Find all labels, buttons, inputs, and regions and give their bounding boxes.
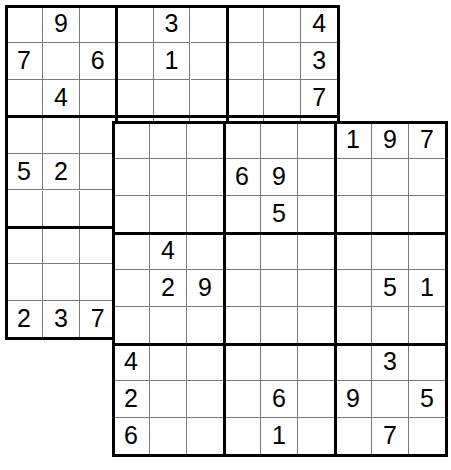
sudoku-empty-cell[interactable]	[335, 307, 372, 344]
sudoku-empty-cell[interactable]	[117, 6, 154, 43]
sudoku-empty-cell[interactable]	[224, 381, 261, 418]
sudoku-given-cell[interactable]: 3	[154, 6, 191, 43]
sudoku-given-cell[interactable]: 6	[80, 43, 117, 80]
sudoku-empty-cell[interactable]	[409, 344, 446, 381]
sudoku-given-cell[interactable]: 5	[261, 196, 298, 233]
sudoku-empty-cell[interactable]	[43, 264, 80, 301]
sudoku-empty-cell[interactable]	[187, 122, 224, 159]
sudoku-empty-cell[interactable]	[409, 233, 446, 270]
sudoku-empty-cell[interactable]	[227, 80, 264, 117]
sudoku-empty-cell[interactable]	[298, 196, 335, 233]
sudoku-given-cell[interactable]: 9	[261, 159, 298, 196]
sudoku-empty-cell[interactable]	[224, 344, 261, 381]
sudoku-empty-cell[interactable]	[187, 159, 224, 196]
sudoku-empty-cell[interactable]	[409, 196, 446, 233]
sudoku-empty-cell[interactable]	[372, 233, 409, 270]
sudoku-empty-cell[interactable]	[187, 196, 224, 233]
sudoku-empty-cell[interactable]	[113, 159, 150, 196]
sudoku-empty-cell[interactable]	[117, 43, 154, 80]
sudoku-empty-cell[interactable]	[261, 344, 298, 381]
sudoku-given-cell[interactable]: 6	[261, 381, 298, 418]
sudoku-given-cell[interactable]: 1	[409, 270, 446, 307]
sudoku-empty-cell[interactable]	[150, 418, 187, 455]
sudoku-empty-cell[interactable]	[335, 196, 372, 233]
sudoku-empty-cell[interactable]	[187, 307, 224, 344]
sudoku-empty-cell[interactable]	[298, 344, 335, 381]
sudoku-empty-cell[interactable]	[6, 227, 43, 264]
sudoku-empty-cell[interactable]	[6, 6, 43, 43]
sudoku-empty-cell[interactable]	[113, 122, 150, 159]
sudoku-empty-cell[interactable]	[154, 80, 191, 117]
sudoku-given-cell[interactable]: 9	[187, 270, 224, 307]
sudoku-given-cell[interactable]: 1	[335, 122, 372, 159]
sudoku-empty-cell[interactable]	[298, 159, 335, 196]
sudoku-given-cell[interactable]: 4	[113, 344, 150, 381]
sudoku-given-cell[interactable]: 5	[6, 154, 43, 191]
sudoku-given-cell[interactable]: 6	[113, 418, 150, 455]
sudoku-empty-cell[interactable]	[191, 6, 228, 43]
sudoku-empty-cell[interactable]	[113, 233, 150, 270]
sudoku-given-cell[interactable]: 4	[43, 80, 80, 117]
sudoku-empty-cell[interactable]	[224, 270, 261, 307]
sudoku-empty-cell[interactable]	[227, 6, 264, 43]
sudoku-empty-cell[interactable]	[264, 80, 301, 117]
sudoku-given-cell[interactable]: 2	[6, 301, 43, 338]
sudoku-given-cell[interactable]: 1	[261, 418, 298, 455]
sudoku-empty-cell[interactable]	[43, 227, 80, 264]
sudoku-empty-cell[interactable]	[335, 159, 372, 196]
sudoku-empty-cell[interactable]	[224, 418, 261, 455]
sudoku-empty-cell[interactable]	[298, 381, 335, 418]
sudoku-given-cell[interactable]: 2	[113, 381, 150, 418]
sudoku-empty-cell[interactable]	[409, 159, 446, 196]
sudoku-empty-cell[interactable]	[80, 80, 117, 117]
sudoku-empty-cell[interactable]	[298, 122, 335, 159]
sudoku-empty-cell[interactable]	[150, 307, 187, 344]
sudoku-empty-cell[interactable]	[261, 307, 298, 344]
sudoku-empty-cell[interactable]	[298, 233, 335, 270]
sudoku-given-cell[interactable]: 4	[150, 233, 187, 270]
sudoku-given-cell[interactable]: 6	[224, 159, 261, 196]
sudoku-empty-cell[interactable]	[335, 233, 372, 270]
sudoku-empty-cell[interactable]	[6, 117, 43, 154]
sudoku-empty-cell[interactable]	[113, 270, 150, 307]
sudoku-empty-cell[interactable]	[80, 6, 117, 43]
sudoku-empty-cell[interactable]	[6, 80, 43, 117]
sudoku-given-cell[interactable]: 4	[301, 6, 338, 43]
sudoku-empty-cell[interactable]	[409, 307, 446, 344]
sudoku-empty-cell[interactable]	[191, 43, 228, 80]
sudoku-given-cell[interactable]: 5	[372, 270, 409, 307]
sudoku-empty-cell[interactable]	[261, 270, 298, 307]
sudoku-given-cell[interactable]: 3	[43, 301, 80, 338]
sudoku-empty-cell[interactable]	[224, 122, 261, 159]
sudoku-empty-cell[interactable]	[227, 43, 264, 80]
sudoku-empty-cell[interactable]	[298, 307, 335, 344]
sudoku-given-cell[interactable]: 9	[335, 381, 372, 418]
sudoku-given-cell[interactable]: 9	[372, 122, 409, 159]
sudoku-empty-cell[interactable]	[150, 381, 187, 418]
sudoku-empty-cell[interactable]	[150, 196, 187, 233]
sudoku-given-cell[interactable]: 2	[150, 270, 187, 307]
sudoku-empty-cell[interactable]	[372, 159, 409, 196]
sudoku-given-cell[interactable]: 7	[372, 418, 409, 455]
sudoku-given-cell[interactable]: 7	[6, 43, 43, 80]
sudoku-empty-cell[interactable]	[372, 307, 409, 344]
sudoku-empty-cell[interactable]	[187, 381, 224, 418]
sudoku-empty-cell[interactable]	[6, 264, 43, 301]
sudoku-empty-cell[interactable]	[261, 122, 298, 159]
sudoku-empty-cell[interactable]	[335, 344, 372, 381]
sudoku-empty-cell[interactable]	[224, 196, 261, 233]
sudoku-empty-cell[interactable]	[261, 233, 298, 270]
sudoku-empty-cell[interactable]	[372, 196, 409, 233]
sudoku-empty-cell[interactable]	[150, 122, 187, 159]
sudoku-empty-cell[interactable]	[6, 191, 43, 228]
sudoku-given-cell[interactable]: 3	[372, 344, 409, 381]
sudoku-empty-cell[interactable]	[43, 43, 80, 80]
sudoku-empty-cell[interactable]	[113, 307, 150, 344]
sudoku-empty-cell[interactable]	[187, 233, 224, 270]
sudoku-given-cell[interactable]: 1	[154, 43, 191, 80]
sudoku-empty-cell[interactable]	[264, 43, 301, 80]
sudoku-given-cell[interactable]: 7	[409, 122, 446, 159]
sudoku-empty-cell[interactable]	[113, 196, 150, 233]
sudoku-empty-cell[interactable]	[372, 381, 409, 418]
sudoku-empty-cell[interactable]	[335, 418, 372, 455]
